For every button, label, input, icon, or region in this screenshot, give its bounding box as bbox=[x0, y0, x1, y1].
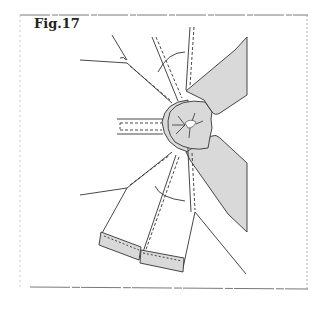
upper-pieces bbox=[80, 27, 194, 103]
pattern-diagram bbox=[0, 0, 327, 309]
center-circle bbox=[162, 100, 212, 152]
left-strip bbox=[117, 119, 163, 134]
hem-bands bbox=[99, 232, 184, 272]
